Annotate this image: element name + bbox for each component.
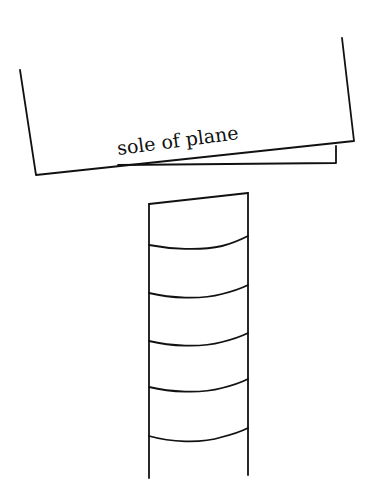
plane: sole of plane [20,38,354,175]
block-segment-line [149,333,248,346]
plane-body-outline [20,38,354,175]
block-segment-line [149,379,248,392]
block-segment-line [149,236,248,249]
block-top-edge [149,193,248,204]
block-segment-line [149,285,248,298]
block-segment-line [149,428,248,441]
diagram-canvas: sole of plane [0,0,383,497]
plane-label: sole of plane [116,121,240,159]
workpiece-block [149,193,248,478]
